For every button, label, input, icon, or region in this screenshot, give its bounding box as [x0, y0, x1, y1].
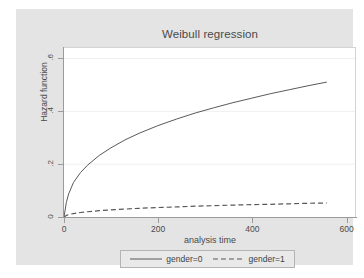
- x-tick: [64, 218, 65, 223]
- legend-label: gender=0: [166, 254, 202, 264]
- legend-item: gender=1: [213, 254, 285, 264]
- series-lines: [64, 82, 327, 217]
- legend-item: gender=0: [130, 254, 202, 264]
- x-axis-line: [63, 217, 357, 218]
- x-tick-label: 400: [235, 224, 269, 234]
- x-tick: [158, 218, 159, 223]
- y-tick: [58, 217, 63, 218]
- chart-screenshot: Weibull regression 0.2.4.6 0200400600 Ha…: [0, 0, 364, 278]
- graph-region: Weibull regression 0.2.4.6 0200400600 Ha…: [16, 9, 353, 265]
- y-axis-title: Hazard function: [39, 47, 49, 137]
- x-axis-title: analysis time: [64, 235, 356, 245]
- plot-svg: [64, 48, 355, 217]
- y-tick: [58, 164, 63, 165]
- x-tick: [252, 218, 253, 223]
- y-tick-label: 0: [46, 209, 55, 225]
- x-tick-label: 0: [47, 224, 81, 234]
- legend-label: gender=1: [249, 254, 285, 264]
- x-tick-label: 600: [330, 224, 364, 234]
- x-tick: [347, 218, 348, 223]
- y-tick: [58, 111, 63, 112]
- series-line-gender=1: [64, 203, 327, 217]
- page-title: Weibull regression: [64, 28, 356, 40]
- gridlines: [64, 59, 355, 165]
- legend-key-dashed-icon: [213, 255, 245, 263]
- series-line-gender=0: [64, 82, 327, 217]
- y-axis-line: [63, 47, 64, 218]
- legend: gender=0 gender=1: [120, 250, 295, 268]
- x-tick-label: 200: [141, 224, 175, 234]
- y-tick: [58, 58, 63, 59]
- plot-area: [64, 47, 356, 217]
- legend-key-solid-icon: [130, 255, 162, 263]
- y-tick-label: .2: [46, 155, 55, 171]
